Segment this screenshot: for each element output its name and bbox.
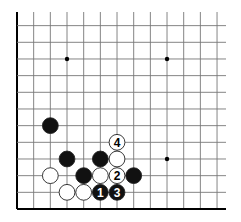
star-point-icon: [165, 57, 169, 61]
black-stone-icon: [42, 118, 58, 134]
white-stone: [92, 168, 108, 184]
black-stone-move-3: 3: [109, 184, 125, 200]
black-stone-icon: [76, 168, 92, 184]
black-stone-icon: [59, 151, 75, 167]
black-stone-icon: [92, 151, 108, 167]
black-stone-move-1: 1: [92, 184, 108, 200]
black-stone: [92, 151, 108, 167]
white-stone-icon: [76, 184, 92, 200]
black-stone: [42, 118, 58, 134]
black-stone: [59, 151, 75, 167]
white-stone: [42, 168, 58, 184]
black-stone: [126, 168, 142, 184]
star-point-icon: [65, 57, 69, 61]
go-board: 4213: [0, 0, 241, 222]
white-stone-move-4: 4: [109, 134, 125, 150]
move-number: 1: [97, 186, 104, 200]
white-stone: [109, 151, 125, 167]
white-stone: [76, 184, 92, 200]
move-number: 2: [114, 169, 121, 183]
white-stone-move-2: 2: [109, 168, 125, 184]
white-stone-icon: [42, 168, 58, 184]
black-stone: [76, 168, 92, 184]
move-number: 4: [114, 136, 121, 150]
white-stone-icon: [92, 168, 108, 184]
white-stone-icon: [59, 184, 75, 200]
white-stone: [59, 184, 75, 200]
star-point-icon: [165, 157, 169, 161]
black-stone-icon: [126, 168, 142, 184]
move-number: 3: [114, 186, 121, 200]
white-stone-icon: [109, 151, 125, 167]
